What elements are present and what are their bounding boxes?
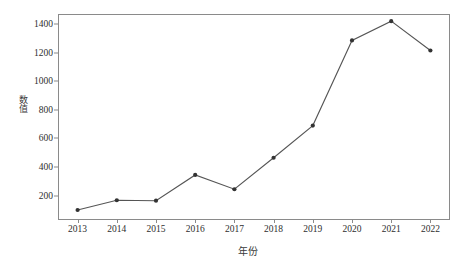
x-tick-mark [156,219,157,223]
y-tick-label: 1200 [19,48,53,58]
y-tick-label: 800 [19,105,53,115]
x-tick-mark [430,219,431,223]
plot-area [58,14,450,220]
chart-figure: 数值 200400600800100012001400 201320142015… [0,0,475,265]
x-tick-mark [313,219,314,223]
x-axis-title: 年份 [0,243,475,258]
x-tick-mark [274,219,275,223]
y-tick-label: 1400 [19,19,53,29]
y-tick-label: 600 [19,133,53,143]
x-tick-mark [234,219,235,223]
y-tick-label: 200 [19,191,53,201]
x-axis-title-text: 年份 [238,246,258,257]
x-tick-mark [195,219,196,223]
y-tick-label: 400 [19,162,53,172]
y-tick-label: 1000 [19,76,53,86]
x-tick-mark [78,219,79,223]
x-tick-label: 2022 [407,224,453,234]
x-tick-mark [391,219,392,223]
x-tick-mark [117,219,118,223]
x-tick-mark [352,219,353,223]
